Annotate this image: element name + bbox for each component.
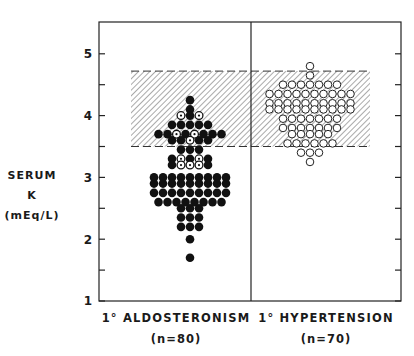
y-axis-tick-labels: 1 2 3 4 5 [84, 47, 92, 308]
plot-frame [99, 22, 401, 301]
tick-label-4: 4 [84, 109, 92, 123]
category-label-hypertension: 1° HYPERTENSION [258, 311, 394, 325]
category-label-aldosteronism: 1° ALDOSTERONISM [102, 311, 251, 325]
tick-label-3: 3 [84, 171, 92, 185]
tick-label-5: 5 [84, 47, 92, 61]
category-n-aldosteronism: (n=80) [151, 332, 201, 346]
dot-plot-chart: 1 2 3 4 5 1° ALDOSTERONISM (n=80) 1° HYP… [0, 0, 414, 356]
tick-label-2: 2 [84, 233, 92, 247]
category-n-hypertension: (n=70) [301, 332, 351, 346]
tick-label-1: 1 [84, 294, 92, 308]
